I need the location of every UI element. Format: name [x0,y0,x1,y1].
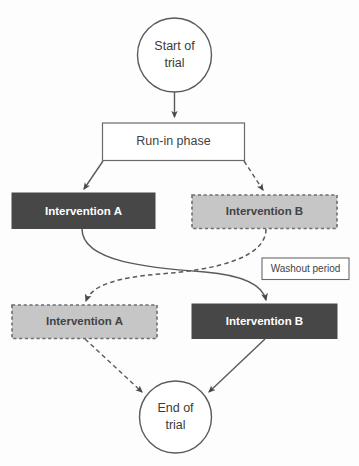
node-start-of-trial[interactable]: Start of trial [138,18,212,92]
intervention-a-period-2-label: Intervention A [46,315,123,327]
edge-crossover-b-to-a [86,229,266,301]
intervention-b-period-2-label: Intervention B [226,315,303,327]
node-intervention-b-period-1[interactable]: Intervention B [192,195,337,229]
intervention-a-period-1-label: Intervention A [45,205,122,217]
node-end-of-trial[interactable]: End of trial [140,381,212,453]
start-label-line1: Start of [154,39,195,53]
end-label-line1: End of [157,401,194,415]
node-intervention-a-period-2[interactable]: Intervention A [12,305,157,339]
edge-crossover-a-to-b [82,229,266,300]
start-circle [138,18,212,92]
node-washout-period[interactable]: Washout period [262,258,349,280]
edge-runin-to-intervention-b [244,161,263,190]
flowchart-canvas: Start of trial Run-in phase Intervention… [0,0,359,466]
edge-runin-to-intervention-a [84,161,103,189]
intervention-b-period-1-label: Intervention B [226,205,303,217]
node-intervention-b-period-2[interactable]: Intervention B [192,304,337,339]
end-circle [140,381,212,453]
end-label-line2: trial [165,418,185,432]
start-label-line2: trial [164,56,184,70]
crossover-trial-diagram: Start of trial Run-in phase Intervention… [0,0,359,466]
edge-intervention-b-to-end [209,339,265,392]
node-intervention-a-period-1[interactable]: Intervention A [12,193,155,229]
edge-intervention-a-to-end [85,339,142,392]
runin-label: Run-in phase [136,134,210,148]
washout-label: Washout period [271,263,341,274]
node-run-in-phase[interactable]: Run-in phase [103,123,245,161]
